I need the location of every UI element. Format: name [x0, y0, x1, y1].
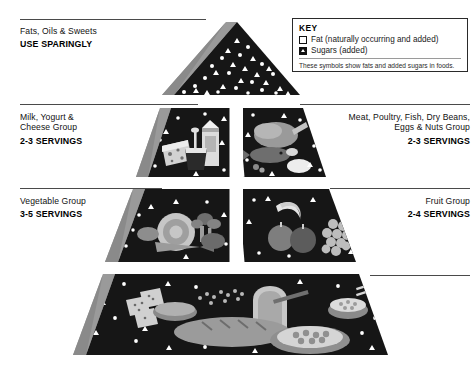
label-bread-line1: Bread, Cereal, — [370, 282, 470, 292]
label-milk-line2: Cheese Group — [20, 122, 190, 132]
label-meat-servings: 2-3 SERVINGS — [300, 136, 470, 147]
rule-fruit — [330, 188, 470, 189]
key-legend-box: KEY Fat (naturally occurring and added) … — [292, 18, 468, 72]
label-bread-servings-count: 6-11 — [370, 316, 470, 327]
label-vegetable-name: Vegetable Group — [20, 196, 170, 206]
rule-fats — [20, 19, 206, 20]
label-bread-line3: Group — [370, 303, 470, 313]
key-item-fat-label: Fat (naturally occurring and added) — [311, 35, 438, 44]
label-fruit-name: Fruit Group — [330, 196, 470, 206]
label-fruit: Fruit Group 2-4 SERVINGS — [330, 196, 470, 220]
key-note: These symbols show fats and added sugars… — [299, 58, 461, 69]
label-fats-name: Fats, Oils & Sweets — [20, 26, 200, 36]
label-milk-servings: 2-3 SERVINGS — [20, 136, 190, 147]
tier-separators — [231, 108, 243, 262]
triangle-filled-icon — [299, 47, 307, 55]
label-meat-line1: Meat, Poultry, Fish, Dry Beans, — [300, 112, 470, 122]
label-bread-cereal-rice-pasta: Bread, Cereal, Rice & Pasta Group 6-11 S… — [370, 282, 470, 338]
label-milk-line1: Milk, Yogurt & — [20, 112, 190, 122]
label-vegetable-servings: 3-5 SERVINGS — [20, 209, 170, 220]
key-item-sugars: Sugars (added) — [299, 46, 461, 55]
rule-bread — [370, 275, 470, 276]
rule-meat — [300, 104, 470, 105]
label-milk-yogurt-cheese: Milk, Yogurt & Cheese Group 2-3 SERVINGS — [20, 112, 190, 147]
label-bread-servings-word: SERVINGS — [370, 327, 470, 338]
label-vegetable: Vegetable Group 3-5 SERVINGS — [20, 196, 170, 220]
key-title: KEY — [299, 23, 461, 33]
food-pyramid-diagram: Fats, Oils & Sweets USE SPARINGLY Milk, … — [0, 0, 476, 375]
tier-bread-cereal-rice-pasta — [86, 274, 388, 355]
label-meat-line2: Eggs & Nuts Group — [300, 122, 470, 132]
label-fruit-servings: 2-4 SERVINGS — [330, 209, 470, 220]
square-outline-icon — [299, 36, 307, 44]
rule-milk — [20, 104, 198, 105]
key-item-sugars-label: Sugars (added) — [311, 46, 367, 55]
label-fats-oils-sweets: Fats, Oils & Sweets USE SPARINGLY — [20, 26, 200, 50]
key-item-fat: Fat (naturally occurring and added) — [299, 35, 461, 44]
label-bread-line2: Rice & Pasta — [370, 292, 470, 302]
label-fats-servings: USE SPARINGLY — [20, 39, 200, 50]
rule-vegetable — [20, 188, 162, 189]
label-meat-poultry-fish: Meat, Poultry, Fish, Dry Beans, Eggs & N… — [300, 112, 470, 147]
